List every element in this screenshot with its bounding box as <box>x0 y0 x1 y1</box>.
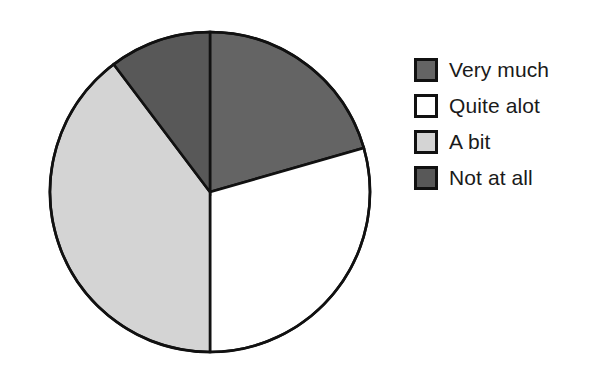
legend-item-not-at-all[interactable]: Not at all <box>414 160 599 196</box>
chart-legend: Very much Quite alot A bit Not at all <box>414 52 599 196</box>
pie-slices <box>50 32 370 352</box>
legend-item-very-much[interactable]: Very much <box>414 52 599 88</box>
legend-label-a-bit: A bit <box>449 130 490 154</box>
page-root: Very much Quite alot A bit Not at all <box>0 0 607 377</box>
legend-swatch-a-bit <box>414 130 438 154</box>
legend-label-not-at-all: Not at all <box>449 166 533 190</box>
legend-swatch-very-much <box>414 58 438 82</box>
legend-swatch-not-at-all <box>414 166 438 190</box>
legend-item-a-bit[interactable]: A bit <box>414 124 599 160</box>
legend-label-very-much: Very much <box>449 58 549 82</box>
legend-swatch-quite-alot <box>414 94 438 118</box>
legend-item-quite-alot[interactable]: Quite alot <box>414 88 599 124</box>
legend-label-quite-alot: Quite alot <box>449 94 540 118</box>
pie-chart-figure: Very much Quite alot A bit Not at all <box>0 0 607 377</box>
